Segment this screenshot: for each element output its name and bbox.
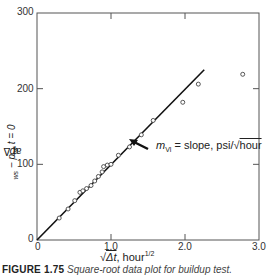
data-point — [181, 100, 185, 104]
data-point — [96, 174, 100, 178]
data-point — [151, 118, 155, 122]
figure-caption: FIGURE 1.75 Square-root data plot for bu… — [2, 264, 232, 275]
figure-caption-text: Square-root data plot for buildup test. — [67, 264, 232, 275]
data-point — [116, 153, 120, 157]
data-point — [57, 216, 61, 220]
x-tick-0: 0 — [35, 241, 41, 252]
data-point — [139, 133, 143, 137]
y-axis-label: pws − pwf at Δt = 0 — [2, 92, 22, 212]
figure-number: FIGURE 1.75 — [2, 264, 64, 275]
data-point — [81, 189, 85, 193]
data-point — [93, 179, 97, 183]
data-point — [66, 207, 70, 211]
data-point — [89, 184, 93, 188]
x-tick-3: 3.0 — [252, 241, 266, 252]
slope-annotation: mVl = slope, psi/√hour — [156, 139, 262, 153]
x-axis-label: √Δt, hour1/2 — [100, 250, 154, 263]
y-tick-300: 300 — [17, 6, 34, 17]
data-point — [196, 82, 200, 86]
data-point — [73, 199, 77, 203]
x-tick-2: 2.0 — [178, 241, 192, 252]
data-point — [109, 162, 113, 166]
data-point — [100, 170, 104, 174]
data-point — [128, 145, 132, 149]
data-point — [241, 72, 245, 76]
y-tick-0: 0 — [28, 233, 34, 244]
data-point — [85, 187, 89, 191]
